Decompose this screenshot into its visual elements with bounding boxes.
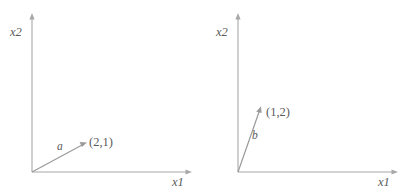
right-panel: [235, 13, 398, 175]
right-panel-y-axis-arrowhead: [235, 13, 240, 20]
vector-figure: x2 x1 a (2,1) x2 x1 b (1,2): [0, 0, 413, 194]
right-panel-vector-coords-label: (1,2): [266, 106, 290, 119]
left-panel-vector-coords-label: (2,1): [89, 136, 113, 149]
left-panel-y-axis-arrowhead: [29, 13, 34, 20]
figure-canvas: [0, 0, 413, 194]
right-panel-vector-b-arrowhead: [256, 106, 261, 113]
left-panel-vector-name-label: a: [57, 141, 63, 153]
right-panel-y-axis-label: x2: [216, 26, 228, 39]
right-panel-vector-name-label: b: [252, 130, 258, 142]
left-panel: [29, 13, 192, 175]
left-panel-y-axis-label: x2: [10, 26, 22, 39]
right-panel-vector-b-line: [238, 112, 259, 173]
left-panel-x-axis-label: x1: [172, 176, 184, 189]
left-panel-x-axis-arrowhead: [186, 169, 193, 174]
right-panel-x-axis-arrowhead: [392, 169, 399, 174]
right-panel-x-axis-label: x1: [378, 176, 390, 189]
